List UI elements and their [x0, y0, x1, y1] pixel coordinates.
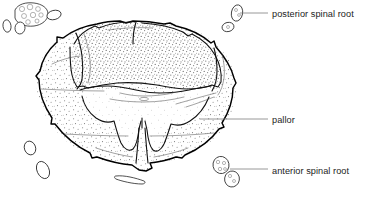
root-small-left-b: [14, 22, 25, 35]
root-upper-mid: [46, 9, 62, 21]
spinal-cord-figure: posterior spinal root pallor anterior sp…: [0, 0, 374, 197]
label-anterior-spinal-root: anterior spinal root: [272, 166, 349, 176]
root-sliver-bottom: [115, 176, 146, 184]
label-posterior-spinal-root: posterior spinal root: [272, 9, 354, 19]
root-lower-left-a: [22, 140, 37, 157]
posterior-columns: [72, 21, 221, 88]
root-lower-left-b: [34, 159, 52, 180]
anterior-spinal-root-bundle-b: [224, 170, 241, 188]
posterior-spinal-root-bundle-lower: [221, 21, 235, 32]
figure-canvas: posterior spinal root pallor anterior sp…: [0, 0, 374, 197]
root-small-left-a: [2, 19, 12, 32]
label-pallor: pallor: [272, 115, 295, 125]
anterior-spinal-root-bundle-a: [212, 155, 231, 175]
